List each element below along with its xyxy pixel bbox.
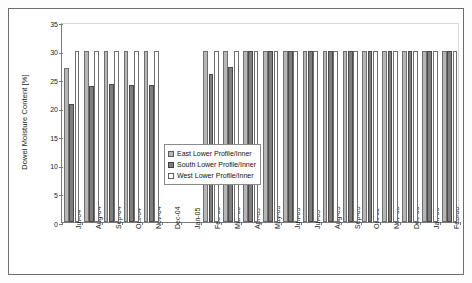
x-tick-mark (460, 222, 461, 225)
bar-south (288, 51, 293, 222)
bar-group (303, 24, 319, 222)
chart-legend: East Lower Profile/Inner South Lower Pro… (164, 144, 261, 185)
bar-group (442, 24, 458, 222)
y-tick-label: 15 (36, 135, 58, 142)
bar-east (243, 51, 248, 222)
bar-west (393, 51, 398, 222)
chart-figure: Dowel Moisture Content [%] 0510152025303… (0, 0, 472, 283)
x-tick-mark (420, 222, 421, 225)
bar-south (129, 85, 134, 222)
bar-east (283, 51, 288, 222)
x-tick-mark (122, 222, 123, 225)
bar-west (413, 51, 418, 222)
bar-west (94, 51, 99, 222)
x-tick-mark (301, 222, 302, 225)
bar-group (323, 24, 339, 222)
bar-east (362, 51, 367, 222)
y-tick-mark (59, 24, 63, 25)
y-tick-mark (59, 53, 63, 54)
bar-west (274, 51, 279, 222)
legend-item-east: East Lower Profile/Inner (168, 148, 256, 159)
bar-west (373, 51, 378, 222)
bar-west (154, 51, 159, 222)
bar-group (84, 24, 100, 222)
bar-group (64, 24, 80, 222)
bar-south (89, 86, 94, 222)
bar-east (442, 51, 447, 222)
x-tick-mark (142, 222, 143, 225)
y-axis-title: Dowel Moisture Content [%] (20, 22, 34, 222)
bar-group (263, 24, 279, 222)
x-tick-mark (102, 222, 103, 225)
bar-east (303, 51, 308, 222)
bar-south (447, 51, 452, 222)
bar-west (214, 51, 219, 222)
bar-west (353, 51, 358, 222)
x-tick-mark (400, 222, 401, 225)
y-tick-label: 30 (36, 49, 58, 56)
x-tick-mark (221, 222, 222, 225)
x-tick-mark (341, 222, 342, 225)
legend-swatch-east-icon (168, 151, 174, 157)
bar-east (223, 51, 228, 222)
bar-group (422, 24, 438, 222)
legend-label-south: South Lower Profile/Inner (177, 161, 256, 168)
bar-south (69, 104, 74, 222)
bar-west (453, 51, 458, 222)
chart-outer-frame: Dowel Moisture Content [%] 0510152025303… (8, 8, 464, 275)
bar-east (323, 51, 328, 222)
y-tick-label: 35 (36, 21, 58, 28)
bar-east (382, 51, 387, 222)
x-tick-mark (321, 222, 322, 225)
x-tick-mark (361, 222, 362, 225)
x-tick-mark (162, 222, 163, 225)
bar-south (109, 84, 114, 222)
bar-west (333, 51, 338, 222)
y-tick-label: 25 (36, 78, 58, 85)
plot-area: Dowel Moisture Content [%] 0510152025303… (61, 23, 459, 223)
bar-west (234, 51, 239, 222)
bar-west (293, 51, 298, 222)
bar-west (75, 51, 80, 222)
bar-east (84, 51, 89, 222)
legend-item-south: South Lower Profile/Inner (168, 159, 256, 170)
bar-group (203, 24, 219, 222)
bar-south (149, 85, 154, 222)
bar-group (144, 24, 160, 222)
bar-west (134, 51, 139, 222)
x-tick-mark (261, 222, 262, 225)
x-tick-mark (62, 222, 63, 225)
legend-item-west: West Lower Profile/Inner (168, 170, 256, 181)
y-tick-mark (59, 110, 63, 111)
y-tick-mark (59, 138, 63, 139)
bar-group (243, 24, 259, 222)
x-tick-mark (181, 222, 182, 225)
x-tick-mark (82, 222, 83, 225)
x-tick-mark (241, 222, 242, 225)
bar-south (388, 51, 393, 222)
x-tick-mark (380, 222, 381, 225)
bar-group (362, 24, 378, 222)
legend-label-east: East Lower Profile/Inner (177, 150, 252, 157)
bar-group (104, 24, 120, 222)
x-tick-mark (440, 222, 441, 225)
bar-south (348, 51, 353, 222)
bar-east (402, 51, 407, 222)
bar-group (382, 24, 398, 222)
bar-west (114, 51, 119, 222)
x-tick-mark (281, 222, 282, 225)
y-tick-label: 10 (36, 163, 58, 170)
y-tick-label: 20 (36, 106, 58, 113)
bar-east (124, 51, 129, 222)
legend-swatch-west-icon (168, 173, 174, 179)
bar-south (427, 51, 432, 222)
y-tick-label: 5 (36, 192, 58, 199)
y-tick-mark (59, 195, 63, 196)
bar-west (313, 51, 318, 222)
bar-east (263, 51, 268, 222)
y-tick-label: 0 (36, 221, 58, 228)
bar-east (203, 51, 208, 222)
bar-west (254, 51, 259, 222)
bar-group (223, 24, 239, 222)
bar-group (124, 24, 140, 222)
